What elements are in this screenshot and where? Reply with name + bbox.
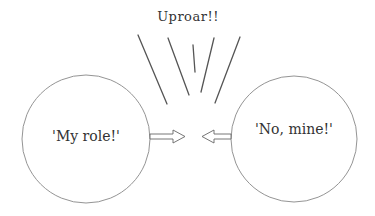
burst-line-1 bbox=[138, 35, 167, 104]
uproar-title: Uproar!! bbox=[157, 9, 219, 24]
burst-line-3 bbox=[193, 45, 195, 72]
arrow-left-icon bbox=[202, 130, 231, 143]
left-circle-label: 'My role!' bbox=[52, 128, 120, 144]
burst-line-5 bbox=[215, 37, 240, 103]
burst-lines bbox=[138, 35, 240, 104]
right-circle bbox=[231, 76, 357, 202]
right-speaker: 'No, mine!' bbox=[231, 76, 357, 202]
burst-line-4 bbox=[201, 38, 214, 92]
left-speaker: 'My role!' bbox=[22, 75, 150, 203]
right-circle-label: 'No, mine!' bbox=[255, 121, 333, 137]
diagram-canvas: Uproar!! 'My role!' 'No, mine!' bbox=[0, 0, 375, 216]
burst-line-2 bbox=[168, 38, 189, 95]
arrow-right-icon bbox=[150, 130, 185, 143]
